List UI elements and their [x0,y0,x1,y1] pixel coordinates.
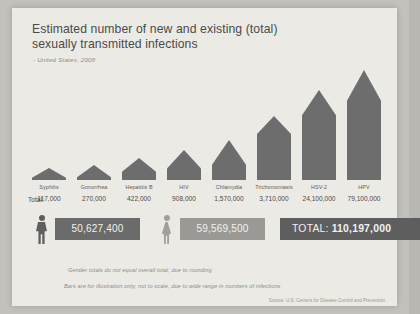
label-slot-2: Hepatitis B 422,000 [116,184,162,202]
category-label-chlamydia: Chlamydia [206,184,252,190]
source-attribution: Source: U.S. Centers for Disease Control… [269,298,385,303]
page-title-line-1: Estimated number of new and existing (to… [32,22,278,36]
male-person-icon [35,215,48,245]
label-slot-7: HPV 79,100,000 [341,184,387,202]
bar-trichomoniasis [257,116,291,180]
category-label-hsv-2: HSV-2 [296,184,342,190]
poster-content: Estimated number of new and existing (to… [12,8,397,306]
footnote-scale: Bars are for illustration only; not to s… [64,283,281,289]
label-slot-3: HIV 908,000 [161,184,207,202]
page-subtitle: - United States, 2008 [33,56,95,63]
value-label-hsv-2: 24,100,000 [296,195,342,202]
category-label-syphilis: Syphilis [26,184,72,190]
category-label-hepatitis-b: Hepatitis B [116,184,162,190]
category-label-trichomoniasis: Trichomoniasis [251,184,297,190]
value-label-gonorrhea: 270,000 [71,195,117,202]
bar-hsv-2 [302,90,336,180]
footnote-rounding: Gender totals do not equal overall total… [68,267,212,273]
value-label-hepatitis-b: 422,000 [116,195,162,202]
bar-syphilis [32,168,66,180]
category-label-gonorrhea: Gonorrhea [71,184,117,190]
category-label-hpv: HPV [341,184,387,190]
bar-hpv [347,70,381,180]
page-title: Estimated number of new and existing (to… [32,22,362,52]
bar-gonorrhea [77,165,111,180]
grand-total-box: TOTAL: 110,197,000 [280,218,420,240]
label-slot-5: Trichomoniasis 3,710,000 [251,184,297,202]
bar-chart [32,70,382,180]
grand-total-label: TOTAL: [292,223,332,234]
value-label-hpv: 79,100,000 [341,195,387,202]
category-label-hiv: HIV [161,184,207,190]
grand-total-value: 110,197,000 [332,223,391,234]
label-slot-0: Syphilis 117,000 [26,184,72,202]
male-icon-head [39,215,45,221]
bar-hiv [167,150,201,180]
male-icon-body [36,222,47,244]
value-label-hiv: 908,000 [161,195,207,202]
male-total-value: 50,627,400 [55,218,140,240]
poster-panel: Estimated number of new and existing (to… [12,8,397,306]
value-label-chlamydia: 1,570,000 [206,195,252,202]
value-label-trichomoniasis: 3,710,000 [251,195,297,202]
bar-labels-row: Total: Syphilis 117,000 Gonorrhea 270,00… [32,184,382,210]
bar-chlamydia [212,140,246,180]
bar-hepatitis-b [122,158,156,180]
female-person-icon [160,215,173,245]
value-label-syphilis: 117,000 [26,195,72,202]
female-icon-head [164,215,170,221]
female-total-value: 59,569,500 [180,218,265,240]
label-slot-6: HSV-2 24,100,000 [296,184,342,202]
summary-row: 50,627,400 59,569,500 TOTAL: 110,197,000 [32,213,382,247]
label-slot-4: Chlamydia 1,570,000 [206,184,252,202]
female-icon-body [161,222,172,244]
page-title-line-2: sexually transmitted infections [32,37,362,52]
label-slot-1: Gonorrhea 270,000 [71,184,117,202]
